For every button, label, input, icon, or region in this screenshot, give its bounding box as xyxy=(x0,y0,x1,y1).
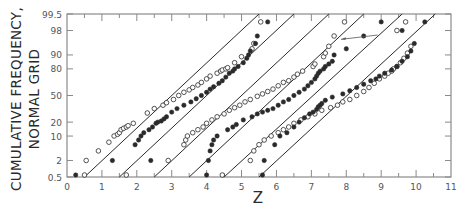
filled-circle-marker xyxy=(332,53,336,57)
filled-circle-marker xyxy=(330,95,334,99)
open-circle-marker xyxy=(107,140,112,145)
filled-circle-marker xyxy=(355,85,359,89)
open-circle-marker xyxy=(262,138,267,143)
open-circle-marker xyxy=(176,93,181,98)
open-circle-marker xyxy=(239,54,244,59)
filled-circle-marker xyxy=(292,125,296,129)
filled-circle-marker xyxy=(302,116,306,120)
filled-circle-marker xyxy=(225,128,229,132)
y-tick-label: 99.5 xyxy=(42,10,62,20)
filled-circle-marker xyxy=(330,59,334,63)
open-circle-marker xyxy=(82,173,87,178)
open-circle-marker xyxy=(395,28,400,33)
filled-circle-marker xyxy=(204,173,208,177)
filled-circle-marker xyxy=(379,20,383,24)
open-circle-marker xyxy=(185,134,190,139)
filled-circle-marker xyxy=(170,110,174,114)
fit-line xyxy=(84,14,259,177)
filled-circle-marker xyxy=(208,149,212,153)
y-axis-title-line2: NORMAL GRID xyxy=(26,49,42,149)
open-circle-marker xyxy=(171,97,176,102)
filled-circle-marker xyxy=(136,138,140,142)
filled-circle-marker xyxy=(255,34,259,38)
filled-circle-marker xyxy=(297,90,301,94)
open-circle-marker xyxy=(145,111,150,116)
filled-circle-marker xyxy=(281,100,285,104)
open-circle-marker xyxy=(227,108,232,113)
x-tick-label: 2 xyxy=(134,182,140,192)
open-circle-marker xyxy=(152,106,157,111)
y-tick-label: 90 xyxy=(51,50,63,60)
filled-circle-marker xyxy=(248,49,252,53)
y-axis-title-line1: CUMULATIVE FREQUENCY, xyxy=(8,7,24,191)
filled-circle-marker xyxy=(260,110,264,114)
arrow-head-icon xyxy=(341,37,346,40)
open-circle-marker xyxy=(182,90,187,95)
filled-circle-marker xyxy=(253,41,257,45)
y-tick-label: 20 xyxy=(51,118,63,128)
open-circle-marker xyxy=(190,85,195,90)
filled-circle-marker xyxy=(224,75,228,79)
filled-circle-marker xyxy=(405,55,409,59)
filled-circle-marker xyxy=(369,79,373,83)
filled-circle-marker xyxy=(255,112,259,116)
x-tick-label: 0 xyxy=(64,182,70,192)
x-tick-label: 3 xyxy=(169,182,175,192)
open-circle-marker xyxy=(269,134,274,139)
open-circle-marker xyxy=(271,87,276,92)
open-circle-marker xyxy=(313,62,318,67)
arrow-shaft xyxy=(341,35,378,39)
filled-circle-marker xyxy=(276,103,280,107)
x-tick-label: 6 xyxy=(274,182,280,192)
open-circle-marker xyxy=(403,20,408,25)
open-circle-marker xyxy=(286,78,291,83)
probability-plot: CUMULATIVE FREQUENCY, NORMAL GRID 0.5210… xyxy=(0,0,466,210)
open-circle-marker xyxy=(243,100,248,105)
filled-circle-marker xyxy=(234,122,238,126)
open-circle-marker xyxy=(201,125,206,130)
y-tick-label: 0.5 xyxy=(48,173,62,183)
filled-circle-marker xyxy=(194,97,198,101)
open-circle-marker xyxy=(124,173,129,178)
x-tick-label: 8 xyxy=(343,182,349,192)
open-circle-marker xyxy=(220,173,225,178)
open-circle-marker xyxy=(281,80,286,85)
filled-circle-marker xyxy=(285,131,289,135)
filled-circle-marker xyxy=(292,93,296,97)
open-circle-marker xyxy=(257,142,262,147)
filled-circle-marker xyxy=(412,41,416,45)
x-tick-label: 11 xyxy=(445,182,456,192)
x-tick-label: 1 xyxy=(99,182,105,192)
y-tick-label: 2 xyxy=(56,156,62,166)
filled-circle-marker xyxy=(395,64,399,68)
open-circle-marker xyxy=(164,100,169,105)
open-circle-marker xyxy=(286,125,291,130)
filled-circle-marker xyxy=(400,59,404,63)
filled-circle-marker xyxy=(344,47,348,51)
open-circle-marker xyxy=(300,69,305,74)
filled-circle-marker xyxy=(150,125,154,129)
open-circle-marker xyxy=(354,93,359,98)
open-circle-marker xyxy=(182,142,187,147)
open-circle-marker xyxy=(252,149,257,154)
series-series-3 xyxy=(124,20,347,178)
filled-circle-marker xyxy=(266,20,270,24)
open-circle-marker xyxy=(342,20,347,25)
open-circle-marker xyxy=(332,34,337,39)
open-circle-marker xyxy=(232,105,237,110)
filled-circle-marker xyxy=(297,120,301,124)
filled-circle-marker xyxy=(390,68,394,72)
x-tick-label: 7 xyxy=(308,182,314,192)
annotation-arrow xyxy=(341,35,378,40)
filled-circle-marker xyxy=(204,90,208,94)
open-circle-marker xyxy=(367,85,372,90)
y-tick-label: 98 xyxy=(51,26,63,36)
filled-circle-marker xyxy=(110,158,114,162)
open-circle-marker xyxy=(215,115,220,120)
open-circle-marker xyxy=(190,130,195,135)
open-circle-marker xyxy=(295,72,300,77)
open-circle-marker xyxy=(341,100,346,105)
filled-circle-marker xyxy=(210,143,214,147)
open-circle-marker xyxy=(328,105,333,110)
open-circle-marker xyxy=(210,118,215,123)
